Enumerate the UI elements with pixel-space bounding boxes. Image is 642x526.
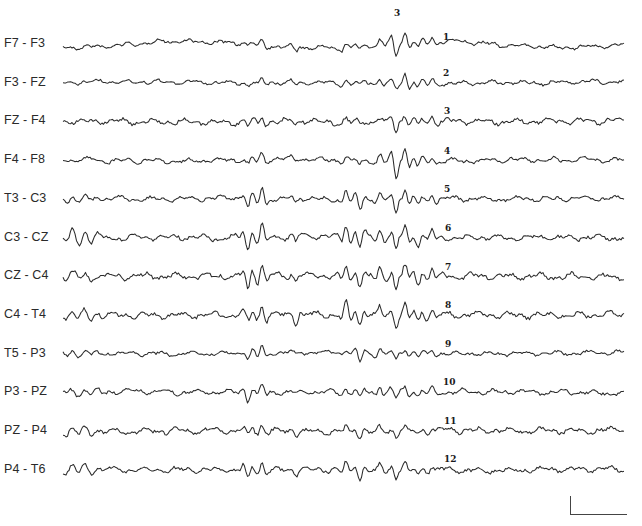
eeg-channel-trace: [63, 300, 624, 329]
channel-number-marker: 2: [443, 68, 449, 78]
eeg-channel-trace: [63, 149, 624, 179]
eeg-channel-trace: [63, 223, 624, 250]
eeg-channel-trace: [63, 424, 624, 438]
top-spike-marker: 3: [394, 8, 400, 18]
eeg-channel-trace: [63, 187, 624, 213]
channel-label: P4 - T6: [4, 462, 68, 476]
channel-number-marker: 7: [445, 262, 451, 272]
channel-label: C3 - CZ: [4, 230, 68, 244]
channel-number-marker: 6: [445, 223, 451, 233]
channel-label: F7 - F3: [4, 36, 68, 50]
eeg-channel-trace: [63, 265, 624, 290]
channel-label: FZ - F4: [4, 113, 68, 127]
channel-number-marker: 11: [444, 416, 457, 426]
channel-label: F4 - F8: [4, 152, 68, 166]
eeg-channel-trace: [63, 346, 624, 363]
channel-number-marker: 12: [444, 454, 457, 464]
channel-label: C4 - T4: [4, 307, 68, 321]
channel-label: F3 - FZ: [4, 75, 68, 89]
channel-label: CZ - C4: [4, 268, 68, 282]
eeg-channel-trace: [63, 33, 624, 56]
eeg-channel-trace: [63, 461, 624, 481]
channel-number-marker: 1: [443, 32, 449, 42]
channel-number-marker: 5: [444, 184, 450, 194]
eeg-channel-trace: [63, 385, 624, 404]
channel-label: P3 - PZ: [4, 384, 68, 398]
channel-number-marker: 4: [444, 146, 450, 156]
eeg-channel-trace: [63, 73, 624, 89]
channel-number-marker: 8: [445, 300, 451, 310]
channel-number-marker: 9: [445, 339, 451, 349]
channel-number-marker: 10: [443, 377, 456, 387]
channel-label: PZ - P4: [4, 423, 68, 437]
eeg-channel-trace: [63, 116, 624, 133]
calibration-scale-bar: [570, 496, 627, 515]
eeg-trace-canvas: [0, 0, 642, 526]
channel-label: T3 - C3: [4, 191, 68, 205]
channel-label: T5 - P3: [4, 346, 68, 360]
channel-number-marker: 3: [444, 106, 450, 116]
